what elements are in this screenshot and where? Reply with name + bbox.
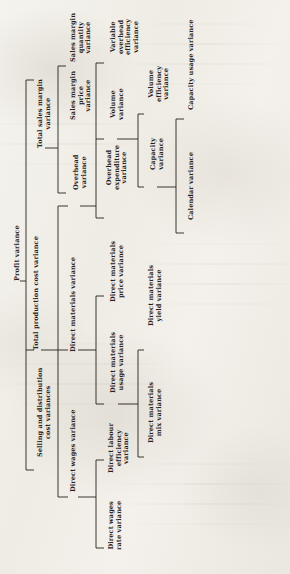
node-label-capacity: Capacity variance xyxy=(150,138,165,170)
node-label-totalprod: Total production cost variance xyxy=(33,236,41,350)
node-label-dwagesrate: Direct wages rate variance xyxy=(108,501,123,550)
node-label-directmaterials: Direct materials variance xyxy=(70,257,78,352)
node-label-overhead: Overhead variance xyxy=(73,154,88,190)
node-label-capacityusage: Capacity usage variance xyxy=(188,20,196,110)
diagram-page: Profit varianceSelling and distribution … xyxy=(0,0,290,574)
node-label-totalsales: Total sales margin variance xyxy=(37,79,52,148)
node-label-salesmarginprice: Sales margin price variance xyxy=(70,71,93,120)
node-label-dlabeff: Direct labour efficiency variance xyxy=(108,423,131,473)
node-label-dmyield: Direct materials yield variance xyxy=(148,265,163,326)
node-label-directwages: Direct wages variance xyxy=(70,410,78,492)
node-label-dmprice: Direct materials price variance xyxy=(110,241,125,302)
node-label-dmmix: Direct materials mix variance xyxy=(148,382,163,443)
node-label-dmusage: Direct materials usage variance xyxy=(110,332,125,393)
node-label-overheadexp: Overhead expenditure variance xyxy=(106,145,129,190)
node-label-volumeeff: Volume efficiency variance xyxy=(148,66,171,102)
node-label-selling: Selling and distribution cost variances xyxy=(37,368,52,457)
node-label-profit: Profit variance xyxy=(14,225,22,281)
node-label-volume: Volume variance xyxy=(110,88,125,120)
node-label-varoverheadeff: Variable overhead efficiency variance xyxy=(110,19,140,55)
node-label-salesmarginqty: Sales margin quantity variance xyxy=(70,13,93,62)
node-label-calendar: Calendar variance xyxy=(188,152,196,220)
